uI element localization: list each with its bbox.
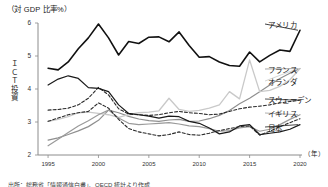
y-tick-label: 4: [17, 85, 31, 92]
ict-investment-line-chart: （対 GDP 比率%） Ｉ Ｃ Ｔ 投 資 65432 199520002005…: [0, 0, 328, 187]
series-label: フランス: [268, 64, 297, 75]
x-tick-label: 2020: [288, 161, 312, 167]
y-tick-label: 5: [17, 52, 31, 59]
series-label: オランダ: [268, 76, 297, 87]
x-tick-label: 2010: [187, 161, 211, 167]
x-tick-label: 1995: [36, 161, 60, 167]
series-label: スウェーデン: [268, 94, 311, 105]
series-label: 日本: [268, 122, 282, 133]
x-axis-unit-label: （年）: [304, 148, 325, 158]
axis-lines: [38, 23, 302, 155]
series-label: アメリカ: [268, 19, 297, 30]
y-tick-label: 3: [17, 118, 31, 125]
series-label: イギリス: [268, 108, 297, 119]
x-tick-label: 2005: [137, 161, 161, 167]
x-tick-label: 2000: [86, 161, 110, 167]
y-tick-label: 6: [17, 19, 31, 26]
series-line: [48, 76, 300, 135]
source-note: 出所：総務省「情報通信白書」、OECD 統計より作成: [8, 180, 324, 187]
x-tick-label: 2015: [238, 161, 262, 167]
series-line: [48, 24, 300, 70]
y-tick-label: 2: [17, 151, 31, 158]
